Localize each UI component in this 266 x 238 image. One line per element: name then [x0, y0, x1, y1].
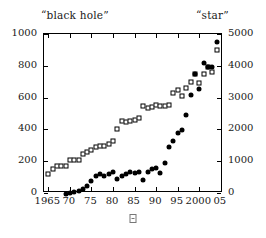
x-axis-tick — [91, 187, 92, 191]
data-point-series-0 — [167, 102, 172, 107]
data-point-series-0 — [175, 88, 180, 93]
data-point-series-0 — [115, 127, 120, 132]
data-point-series-0 — [214, 48, 219, 53]
right-axis-tick — [217, 129, 221, 130]
data-point-series-1 — [214, 40, 219, 45]
x-axis-tick-top — [156, 34, 157, 38]
left-axis-tick-label: 400 — [0, 123, 37, 133]
left-axis-tick-label: 600 — [0, 92, 37, 102]
x-axis-tick-label: 85 — [127, 196, 140, 206]
data-point-series-0 — [63, 163, 68, 168]
left-axis-tick — [44, 98, 48, 99]
x-axis-tick-top — [199, 34, 200, 38]
x-axis-tick-label: 05 — [213, 196, 226, 206]
left-axis-tick-label: 800 — [0, 60, 37, 70]
data-point-series-1 — [184, 113, 189, 118]
right-axis-tick-label: 5000 — [228, 28, 253, 38]
x-axis-tick-label: 95 — [170, 196, 183, 206]
x-axis-tick-top — [91, 34, 92, 38]
plot-area — [43, 33, 222, 192]
data-point-series-1 — [158, 170, 163, 175]
x-axis-tick-label: 80 — [106, 196, 119, 206]
right-axis-tick-label: 3000 — [228, 92, 253, 102]
right-axis-tick-label: 2000 — [228, 123, 253, 133]
data-point-series-1 — [180, 128, 185, 133]
x-axis-tick — [113, 187, 114, 191]
left-axis-tick — [44, 161, 48, 162]
x-axis-tick-top — [70, 34, 71, 38]
x-axis-tick-top — [221, 34, 222, 38]
x-axis-tick-top — [135, 34, 136, 38]
x-axis-tick — [156, 187, 157, 191]
right-axis-tick-label: 4000 — [228, 60, 253, 70]
data-point-series-1 — [154, 165, 159, 170]
left-axis-title: “black hole” — [41, 9, 109, 21]
x-axis-tick-label: 1965 — [35, 196, 60, 206]
data-point-series-1 — [192, 71, 197, 76]
data-point-series-1 — [162, 160, 167, 165]
data-point-series-0 — [188, 79, 193, 84]
data-point-series-0 — [201, 72, 206, 77]
data-point-series-0 — [76, 157, 81, 162]
x-axis-tick-label: 75 — [84, 196, 97, 206]
x-axis-tick-top — [178, 34, 179, 38]
x-axis-tick-top — [113, 34, 114, 38]
left-axis-tick — [44, 193, 48, 194]
x-axis-label — [130, 214, 137, 225]
data-point-series-0 — [136, 116, 141, 121]
data-point-series-0 — [46, 172, 51, 177]
left-axis-tick-label: 200 — [0, 155, 37, 165]
data-point-series-0 — [184, 86, 189, 91]
x-axis-tick — [48, 187, 49, 191]
right-axis-tick — [217, 66, 221, 67]
left-axis-tick-label: 1000 — [0, 28, 37, 38]
data-point-series-0 — [197, 81, 202, 86]
data-point-series-1 — [136, 170, 141, 175]
data-point-series-1 — [188, 93, 193, 98]
data-point-series-1 — [197, 87, 202, 92]
x-axis-tick — [221, 187, 222, 191]
x-axis-tick-label: 90 — [149, 196, 162, 206]
data-point-series-1 — [167, 145, 172, 150]
x-axis-tick-label: 70 — [63, 196, 76, 206]
x-axis-tick-label: 2000 — [186, 196, 211, 206]
left-axis-tick-label: 0 — [0, 187, 37, 197]
data-point-series-1 — [210, 65, 215, 70]
x-axis-tick-top — [48, 34, 49, 38]
data-point-series-0 — [111, 138, 116, 143]
right-axis-tick-label: 0 — [228, 187, 234, 197]
x-axis-tick — [178, 187, 179, 191]
data-point-series-0 — [210, 70, 215, 75]
tofu-glyph-icon — [130, 214, 137, 223]
data-point-series-1 — [89, 179, 94, 184]
data-point-series-1 — [141, 177, 146, 182]
right-axis-tick — [217, 98, 221, 99]
right-axis-tick — [217, 193, 221, 194]
data-point-series-0 — [180, 93, 185, 98]
right-axis-title: “star” — [196, 9, 229, 21]
data-point-series-1 — [111, 170, 116, 175]
left-axis-tick — [44, 129, 48, 130]
data-point-series-1 — [171, 139, 176, 144]
left-axis-tick — [44, 66, 48, 67]
right-axis-tick-label: 1000 — [228, 155, 253, 165]
x-axis-tick — [199, 187, 200, 191]
right-axis-tick — [217, 161, 221, 162]
data-point-series-1 — [85, 183, 90, 188]
scatter-chart: “black hole” “star” 02004006008001000010… — [0, 0, 266, 238]
x-axis-tick — [135, 187, 136, 191]
